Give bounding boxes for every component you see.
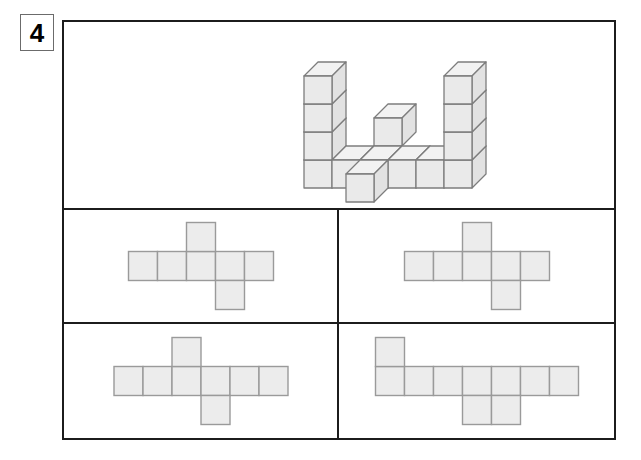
net-diagram-d — [372, 335, 581, 428]
net-square — [215, 281, 244, 310]
cube-front-face — [304, 132, 332, 160]
net-option-d[interactable] — [339, 324, 614, 438]
cube-solid-figure — [64, 22, 613, 205]
cube-front-face — [444, 132, 472, 160]
net-option-a[interactable] — [64, 210, 339, 324]
cube-front-face — [304, 160, 332, 188]
question-number-badge: 4 — [20, 14, 54, 51]
net-square — [433, 367, 462, 396]
cube-front-face — [388, 160, 416, 188]
net-square — [230, 367, 259, 396]
net-square — [520, 252, 549, 281]
net-square — [172, 338, 201, 367]
net-square — [404, 367, 433, 396]
net-square — [491, 252, 520, 281]
net-diagram-a — [125, 220, 276, 313]
question-number: 4 — [30, 20, 44, 46]
net-square — [186, 223, 215, 252]
net-square — [157, 252, 186, 281]
cube-front-face — [374, 118, 402, 146]
net-square — [375, 367, 404, 396]
answer-options-grid — [64, 210, 614, 438]
cube-front-face — [346, 174, 374, 202]
net-square — [215, 252, 244, 281]
net-square — [201, 367, 230, 396]
net-option-c[interactable] — [64, 324, 339, 438]
net-square — [172, 367, 201, 396]
net-square — [114, 367, 143, 396]
cube-front-face — [444, 76, 472, 104]
net-square — [491, 367, 520, 396]
net-square — [433, 252, 462, 281]
net-square — [462, 223, 491, 252]
exercise-frame — [62, 20, 616, 440]
net-square — [259, 367, 288, 396]
net-square — [404, 252, 433, 281]
net-square — [186, 252, 215, 281]
cube-front-face — [444, 160, 472, 188]
net-square — [201, 396, 230, 425]
net-square — [462, 252, 491, 281]
net-square — [143, 367, 172, 396]
net-square — [244, 252, 273, 281]
net-square — [491, 281, 520, 310]
net-square — [128, 252, 157, 281]
net-square — [375, 338, 404, 367]
net-diagram-b — [401, 220, 552, 313]
net-square — [491, 396, 520, 425]
cube-front-face — [304, 104, 332, 132]
stimulus-panel — [64, 22, 614, 210]
cube-front-face — [416, 160, 444, 188]
net-diagram-c — [111, 335, 291, 428]
net-square — [462, 396, 491, 425]
cube-0 — [374, 104, 416, 146]
net-square — [462, 367, 491, 396]
net-square — [549, 367, 578, 396]
net-option-b[interactable] — [339, 210, 614, 324]
cube-front-face — [444, 104, 472, 132]
net-square — [520, 367, 549, 396]
cube-front-face — [304, 76, 332, 104]
